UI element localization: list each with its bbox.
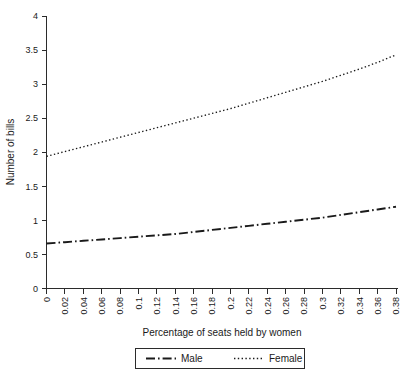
x-tick-label: 0.32 (336, 297, 346, 315)
x-tick-label: 0.08 (115, 297, 125, 315)
chart-legend: MaleFemale (136, 349, 305, 369)
x-tick-label: 0.28 (299, 297, 309, 315)
x-tick-label: 0.38 (391, 297, 401, 315)
y-tick-label: 0 (33, 284, 38, 294)
y-tick-label: 3.5 (25, 45, 38, 55)
x-tick-label: 0.18 (207, 297, 217, 315)
x-tick-label: 0 (42, 297, 52, 302)
x-tick-label: 0.2 (226, 297, 236, 310)
y-tick-label: 2.5 (25, 113, 38, 123)
x-tick-label: 0.3 (318, 297, 328, 310)
y-tick-label: 0.5 (25, 250, 38, 260)
x-tick-label: 0.02 (60, 297, 70, 315)
x-tick-label: 0.14 (171, 297, 181, 315)
x-tick-label: 0.36 (373, 297, 383, 315)
chart-axes (47, 16, 399, 289)
y-tick-label: 3 (33, 79, 38, 89)
series-lines (47, 55, 397, 244)
x-axis-ticks: 00.020.040.060.080.10.120.140.160.180.20… (42, 289, 402, 315)
y-tick-label: 2 (33, 147, 38, 157)
y-axis-ticks: 00.511.522.533.54 (25, 11, 46, 294)
x-tick-label: 0.34 (355, 297, 365, 315)
y-tick-label: 1.5 (25, 182, 38, 192)
x-tick-label: 0.06 (97, 297, 107, 315)
y-tick-label: 1 (33, 216, 38, 226)
x-tick-label: 0.16 (189, 297, 199, 315)
x-tick-label: 0.22 (244, 297, 254, 315)
x-tick-label: 0.12 (152, 297, 162, 315)
y-axis-title: Number of bills (5, 119, 16, 186)
chart-figure: 00.511.522.533.54 00.020.040.060.080.10.… (0, 0, 411, 374)
legend-label-male: Male (181, 353, 203, 364)
x-tick-label: 0.1 (134, 297, 144, 310)
x-tick-label: 0.24 (263, 297, 273, 315)
x-axis-title: Percentage of seats held by women (143, 327, 302, 338)
legend-label-female: Female (269, 353, 303, 364)
x-tick-label: 0.04 (79, 297, 89, 315)
x-tick-label: 0.26 (281, 297, 291, 315)
series-line-female (47, 55, 397, 157)
line-chart-canvas: 00.511.522.533.54 00.020.040.060.080.10.… (0, 0, 411, 374)
y-tick-label: 4 (33, 11, 38, 21)
series-line-male (47, 207, 397, 244)
